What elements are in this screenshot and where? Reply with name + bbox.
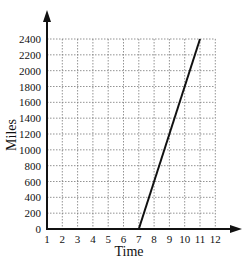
x-tick-label: 10 bbox=[179, 233, 191, 245]
x-tick-label: 8 bbox=[151, 233, 157, 245]
y-tick-label: 200 bbox=[25, 207, 42, 219]
x-tick-label: 3 bbox=[75, 233, 81, 245]
y-tick-label: 1400 bbox=[19, 112, 42, 124]
x-axis-label: Time bbox=[114, 244, 143, 259]
y-tick-label: 1800 bbox=[19, 81, 42, 93]
y-tick-label: 400 bbox=[25, 191, 42, 203]
y-tick-label: 2400 bbox=[19, 33, 42, 45]
x-tick-label: 5 bbox=[105, 233, 111, 245]
x-tick-label: 1 bbox=[44, 233, 50, 245]
y-tick-label: 600 bbox=[25, 176, 42, 188]
y-axis-label: Miles bbox=[4, 119, 19, 151]
y-tick-label: 2200 bbox=[19, 49, 42, 61]
y-tick-label: 0 bbox=[36, 223, 42, 235]
x-tick-label: 2 bbox=[60, 233, 66, 245]
y-tick-labels: 0200400600800100012001400160018002000220… bbox=[19, 33, 42, 235]
y-tick-label: 1200 bbox=[19, 128, 42, 140]
x-tick-label: 12 bbox=[210, 233, 221, 245]
chart-canvas: 0200400600800100012001400160018002000220… bbox=[0, 0, 249, 261]
x-tick-label: 4 bbox=[90, 233, 96, 245]
x-axis-arrow-icon bbox=[230, 225, 242, 233]
y-tick-label: 1600 bbox=[19, 96, 42, 108]
y-tick-label: 2000 bbox=[19, 65, 42, 77]
y-tick-label: 1000 bbox=[19, 144, 42, 156]
x-tick-label: 9 bbox=[167, 233, 173, 245]
y-axis-arrow-icon bbox=[43, 10, 51, 22]
y-tick-label: 800 bbox=[25, 160, 42, 172]
x-tick-label: 11 bbox=[195, 233, 206, 245]
